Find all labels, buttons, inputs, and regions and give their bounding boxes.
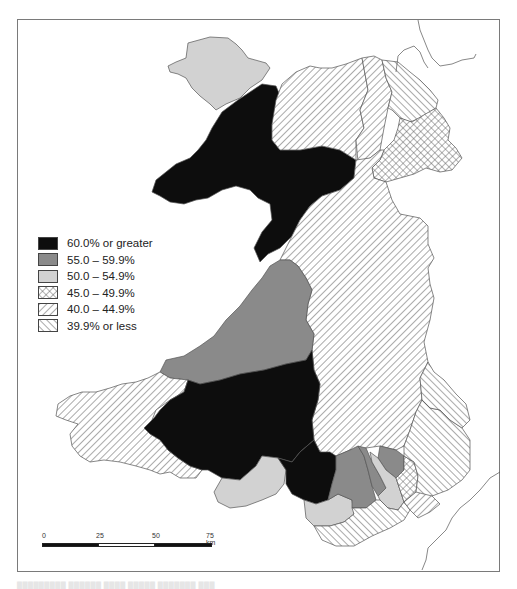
legend-label: 50.0 – 54.9% <box>67 270 135 282</box>
legend-item: 40.0 – 44.9% <box>38 301 153 318</box>
scale-tick-25: 25 <box>96 532 104 539</box>
region-conwy <box>272 58 368 160</box>
scale-segment-2 <box>98 543 155 547</box>
faint-caption: █████████ ██████ ████ █████ ███████ ███ <box>17 582 215 589</box>
scale-segment-1 <box>42 543 99 547</box>
legend-item: 60.0% or greater <box>38 235 153 252</box>
swatch-39-less-backward-hatch <box>38 319 58 332</box>
swatch-50-54 <box>38 270 58 283</box>
swatch-55-59 <box>38 253 58 266</box>
legend-label: 55.0 – 59.9% <box>67 254 135 266</box>
legend-label: 45.0 – 49.9% <box>67 287 135 299</box>
legend-label: 39.9% or less <box>67 320 137 332</box>
legend-item: 39.9% or less <box>38 318 153 335</box>
legend: 60.0% or greater 55.0 – 59.9% 50.0 – 54.… <box>38 235 153 334</box>
legend-item: 50.0 – 54.9% <box>38 268 153 285</box>
legend-label: 60.0% or greater <box>67 237 153 249</box>
scale-bar: 0 25 50 75 km <box>42 532 214 552</box>
legend-label: 40.0 – 44.9% <box>67 303 135 315</box>
swatch-60-plus <box>38 237 58 250</box>
swatch-40-44-forward-hatch <box>38 303 58 316</box>
legend-item: 45.0 – 49.9% <box>38 285 153 302</box>
swatch-45-49-crosshatch <box>38 286 58 299</box>
scale-segment-3 <box>154 543 212 547</box>
scale-tick-50: 50 <box>152 532 160 539</box>
scale-tick-0: 0 <box>42 532 46 539</box>
legend-item: 55.0 – 59.9% <box>38 252 153 269</box>
dee-estuary-line <box>418 20 476 66</box>
